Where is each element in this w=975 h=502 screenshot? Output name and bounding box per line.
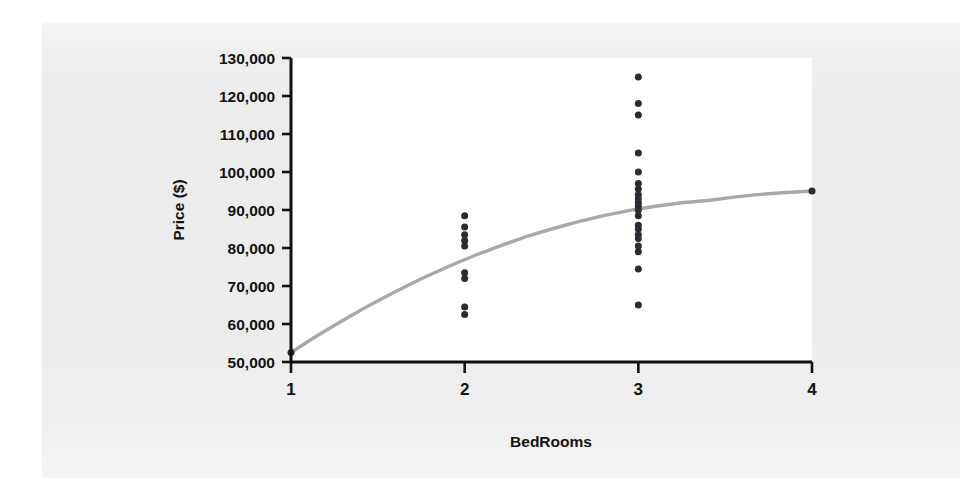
y-tick-label: 110,000: [220, 126, 275, 143]
data-point: [635, 248, 642, 255]
data-point: [635, 150, 642, 157]
x-tick-label: 2: [460, 380, 469, 399]
y-tick-label: 60,000: [228, 316, 275, 333]
plot-area-background: [291, 58, 812, 362]
y-tick-label: 120,000: [219, 88, 275, 105]
x-tick-label: 4: [807, 380, 817, 399]
data-point: [635, 112, 642, 119]
y-tick-label: 50,000: [228, 354, 275, 371]
data-point: [635, 302, 642, 309]
x-tick-label: 3: [634, 380, 643, 399]
data-point: [635, 235, 642, 242]
y-tick-label: 130,000: [219, 50, 275, 67]
data-point: [461, 243, 468, 250]
chart-svg: 50,00060,00070,00080,00090,000100,000110…: [0, 0, 975, 502]
data-point: [461, 224, 468, 231]
data-point: [635, 100, 642, 107]
y-tick-label: 70,000: [228, 278, 275, 295]
data-point: [635, 265, 642, 272]
x-axis-tick-labels: 1234: [286, 380, 817, 399]
data-point: [461, 212, 468, 219]
data-point: [461, 303, 468, 310]
data-point: [635, 74, 642, 81]
y-tick-label: 100,000: [219, 164, 275, 181]
x-tick-label: 1: [286, 380, 295, 399]
data-point: [635, 169, 642, 176]
data-point: [461, 275, 468, 282]
data-point: [809, 188, 816, 195]
y-axis-tick-labels: 50,00060,00070,00080,00090,000100,000110…: [219, 50, 275, 371]
y-tick-label: 90,000: [228, 202, 275, 219]
scatter-plot-figure: 50,00060,00070,00080,00090,000100,000110…: [0, 0, 975, 502]
x-axis-title: BedRooms: [510, 433, 592, 450]
y-axis-title: Price ($): [170, 179, 187, 240]
y-tick-label: 80,000: [228, 240, 275, 257]
x-axis-ticks: [291, 362, 812, 373]
data-point: [461, 311, 468, 318]
data-point: [635, 212, 642, 219]
